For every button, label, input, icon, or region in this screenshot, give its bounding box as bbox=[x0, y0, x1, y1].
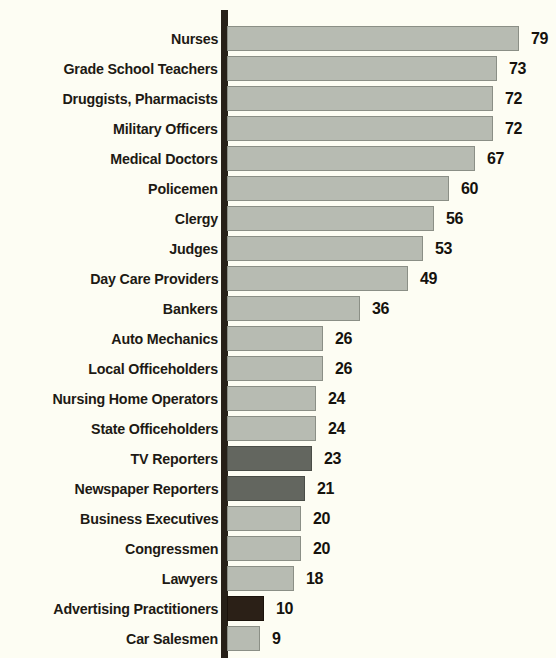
bar bbox=[227, 536, 301, 561]
bar bbox=[227, 176, 449, 201]
bar bbox=[227, 416, 316, 441]
bar bbox=[227, 356, 323, 381]
category-label: Nurses bbox=[167, 30, 218, 48]
bar bbox=[227, 236, 423, 261]
bar-row: Nurses79 bbox=[0, 24, 556, 54]
category-label: Advertising Practitioners bbox=[39, 600, 218, 618]
category-label: Lawyers bbox=[157, 570, 218, 588]
category-label: State Officeholders bbox=[80, 420, 218, 438]
bar-row: Druggists, Pharmacists72 bbox=[0, 84, 556, 114]
bar bbox=[227, 566, 294, 591]
bar-value-label: 49 bbox=[420, 270, 437, 288]
bar bbox=[227, 626, 260, 651]
bar-value-label: 9 bbox=[272, 630, 281, 648]
category-label: Newspaper Reporters bbox=[62, 480, 218, 498]
bar-rows-container: Nurses79Grade School Teachers73Druggists… bbox=[0, 0, 556, 658]
bar-value-label: 10 bbox=[276, 600, 293, 618]
bar-value-label: 24 bbox=[328, 390, 345, 408]
bar-value-label: 24 bbox=[328, 420, 345, 438]
bar-value-label: 72 bbox=[505, 90, 522, 108]
category-label: Car Salesmen bbox=[118, 630, 218, 648]
bar bbox=[227, 296, 360, 321]
bar-value-label: 26 bbox=[335, 360, 352, 378]
bar bbox=[227, 326, 323, 351]
category-label: Congressmen bbox=[117, 540, 218, 558]
bar bbox=[227, 56, 497, 81]
category-label: Business Executives bbox=[68, 510, 218, 528]
bar-value-label: 26 bbox=[335, 330, 352, 348]
category-label: Day Care Providers bbox=[79, 270, 218, 288]
bar-row: Clergy56 bbox=[0, 204, 556, 234]
bar-value-label: 67 bbox=[487, 150, 504, 168]
category-label: Medical Doctors bbox=[101, 150, 218, 168]
bar-row: Day Care Providers49 bbox=[0, 264, 556, 294]
bar-value-label: 79 bbox=[531, 30, 548, 48]
category-label: Local Officeholders bbox=[77, 360, 218, 378]
bar-value-label: 56 bbox=[446, 210, 463, 228]
bar-row: Military Officers72 bbox=[0, 114, 556, 144]
bar bbox=[227, 86, 493, 111]
bar bbox=[227, 596, 264, 621]
bar-row: Car Salesmen9 bbox=[0, 624, 556, 654]
bar-row: Bankers36 bbox=[0, 294, 556, 324]
bar-value-label: 53 bbox=[435, 240, 452, 258]
bar-value-label: 18 bbox=[306, 570, 323, 588]
bar-row: Newspaper Reporters21 bbox=[0, 474, 556, 504]
bar-row: Judges53 bbox=[0, 234, 556, 264]
bar bbox=[227, 476, 305, 501]
bar-row: State Officeholders24 bbox=[0, 414, 556, 444]
category-label: Military Officers bbox=[104, 120, 218, 138]
category-label: Judges bbox=[165, 240, 218, 258]
bar-value-label: 60 bbox=[461, 180, 478, 198]
bar bbox=[227, 206, 434, 231]
bar-row: Lawyers18 bbox=[0, 564, 556, 594]
bar-row: Local Officeholders26 bbox=[0, 354, 556, 384]
bar-row: Policemen60 bbox=[0, 174, 556, 204]
bar-value-label: 73 bbox=[509, 60, 526, 78]
category-label: TV Reporters bbox=[123, 450, 218, 468]
bar-value-label: 20 bbox=[313, 540, 330, 558]
category-label: Policemen bbox=[142, 180, 218, 198]
bar bbox=[227, 506, 301, 531]
bar bbox=[227, 386, 316, 411]
category-label: Nursing Home Operators bbox=[38, 390, 218, 408]
bar-row: TV Reporters23 bbox=[0, 444, 556, 474]
category-label: Auto Mechanics bbox=[102, 330, 218, 348]
category-label: Clergy bbox=[171, 210, 218, 228]
category-label: Bankers bbox=[158, 300, 218, 318]
bar-row: Business Executives20 bbox=[0, 504, 556, 534]
bar-value-label: 21 bbox=[317, 480, 334, 498]
bar-chart: Nurses79Grade School Teachers73Druggists… bbox=[0, 0, 556, 658]
bar-value-label: 36 bbox=[372, 300, 389, 318]
category-label: Grade School Teachers bbox=[50, 60, 218, 78]
category-label: Druggists, Pharmacists bbox=[49, 90, 218, 108]
bar-row: Medical Doctors67 bbox=[0, 144, 556, 174]
bar-value-label: 72 bbox=[505, 120, 522, 138]
bar-row: Nursing Home Operators24 bbox=[0, 384, 556, 414]
bar-value-label: 20 bbox=[313, 510, 330, 528]
bar bbox=[227, 446, 312, 471]
bar-row: Grade School Teachers73 bbox=[0, 54, 556, 84]
bar-row: Advertising Practitioners10 bbox=[0, 594, 556, 624]
bar-row: Auto Mechanics26 bbox=[0, 324, 556, 354]
bar bbox=[227, 116, 493, 141]
bar-row: Congressmen20 bbox=[0, 534, 556, 564]
bar bbox=[227, 26, 519, 51]
bar bbox=[227, 146, 475, 171]
bar-value-label: 23 bbox=[324, 450, 341, 468]
bar bbox=[227, 266, 408, 291]
